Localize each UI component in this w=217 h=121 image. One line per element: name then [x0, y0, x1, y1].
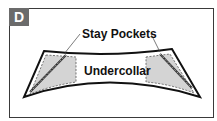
undercollar-diagram [0, 0, 217, 121]
left-leader-line [64, 34, 80, 54]
undercollar-label: Undercollar [84, 64, 151, 78]
stay-pockets-label: Stay Pockets [82, 27, 157, 41]
